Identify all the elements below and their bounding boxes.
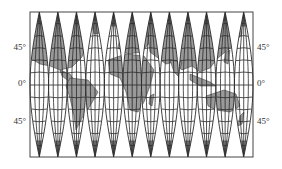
- madagascar: [149, 94, 154, 106]
- gore-map: 45° 0° 45° 45° 0° 45°: [0, 0, 282, 169]
- label-right-45s: 45°: [257, 116, 270, 126]
- africa: [108, 54, 154, 112]
- indonesia: [190, 74, 216, 86]
- label-right-45n: 45°: [257, 42, 270, 52]
- gore-outlines: [30, 12, 253, 157]
- label-left-equator: 0°: [2, 78, 26, 88]
- south-america: [66, 78, 98, 130]
- antarctic-tips: [30, 141, 253, 157]
- world-map-gores: [0, 0, 282, 169]
- arctic-tips: [30, 12, 253, 26]
- label-right-equator: 0°: [257, 78, 265, 88]
- label-left-45n: 45°: [2, 42, 26, 52]
- label-left-45s: 45°: [2, 116, 26, 126]
